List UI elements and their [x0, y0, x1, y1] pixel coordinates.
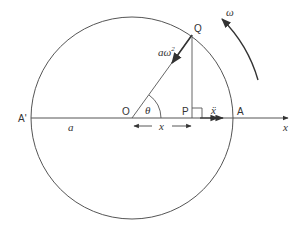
right-angle-marker [192, 108, 202, 118]
angular-velocity-arrow [222, 19, 258, 80]
label-A-prime: A' [18, 113, 27, 124]
shm-circle-diagram: Q O P A A' θ ω a aω2 x ẍ x [0, 0, 305, 231]
label-centripetal-acceleration: aω2 [158, 45, 175, 58]
label-centripetal-acceleration-exponent: 2 [171, 45, 175, 53]
label-radius-a: a [68, 121, 74, 133]
label-Q: Q [194, 23, 202, 34]
label-x-axis: x [282, 121, 288, 133]
label-displacement-x: x [158, 120, 164, 132]
label-omega: ω [226, 6, 234, 18]
theta-angle-arc [149, 95, 161, 118]
label-A: A [237, 106, 244, 117]
centripetal-acceleration-arrow [172, 35, 192, 63]
label-centripetal-acceleration-base: aω [158, 46, 172, 58]
label-P: P [182, 106, 189, 117]
label-theta: θ [145, 104, 151, 116]
label-O: O [122, 106, 130, 117]
label-acceleration-x: ẍ [210, 104, 216, 116]
